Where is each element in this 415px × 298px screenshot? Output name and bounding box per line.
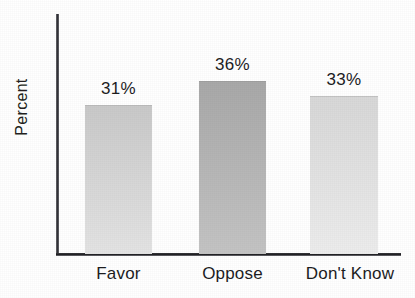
bar-favor [85, 105, 152, 254]
y-axis-label: Percent [13, 59, 35, 155]
category-label-oppose: Oppose [195, 264, 270, 284]
bar-slot: 36% [199, 14, 266, 254]
bar-oppose [199, 81, 266, 254]
plot-area: 31% 36% 33% [59, 14, 401, 254]
bar-dont-know [310, 96, 378, 254]
bar-slot: 31% [85, 14, 152, 254]
bar-value-oppose: 36% [215, 55, 250, 75]
bar-value-dont-know: 33% [326, 70, 361, 90]
bar-value-favor: 31% [101, 79, 136, 99]
chart-title-clipped [0, 0, 415, 6]
bar-chart: Percent 31% 36% 33% Favor Oppose Don't K… [0, 0, 415, 298]
bar-slot: 33% [310, 14, 378, 254]
category-label-favor: Favor [85, 264, 152, 284]
category-label-dont-know: Don't Know [295, 264, 405, 284]
